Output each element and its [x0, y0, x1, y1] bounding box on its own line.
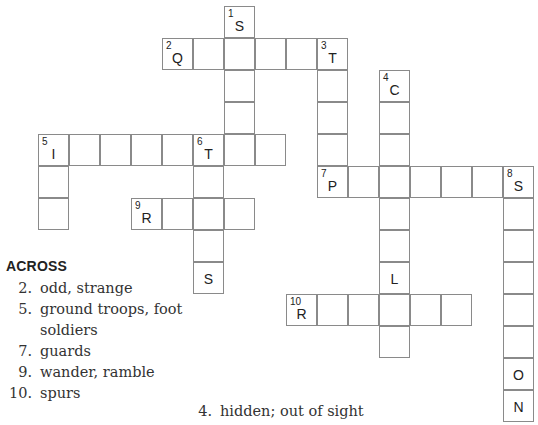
crossword-cell[interactable]: 5I [38, 134, 69, 166]
crossword-cell[interactable] [224, 134, 255, 166]
clue-text: spurs [40, 383, 190, 404]
crossword-cell[interactable] [441, 166, 472, 198]
crossword-cell[interactable]: 7P [317, 166, 348, 198]
clue-text: wander, ramble [40, 362, 190, 383]
across-heading: ACROSS [6, 258, 190, 274]
clue-across-10: 10. spurs [6, 383, 190, 404]
crossword-cell[interactable]: 3T [317, 38, 348, 70]
crossword-cell[interactable] [255, 38, 286, 70]
crossword-cell[interactable] [379, 326, 410, 358]
crossword-cell[interactable] [348, 294, 379, 326]
crossword-cell[interactable] [317, 70, 348, 102]
crossword-cell[interactable] [379, 134, 410, 166]
crossword-cell[interactable] [193, 198, 224, 230]
cell-letter: R [287, 306, 316, 322]
crossword-cell[interactable] [224, 70, 255, 102]
crossword-cell[interactable]: 6T [193, 134, 224, 166]
down-clues: 4. hidden; out of sight [196, 401, 364, 422]
cell-letter: N [504, 399, 533, 415]
crossword-cell[interactable] [379, 198, 410, 230]
cell-letter: C [380, 82, 409, 98]
crossword-cell[interactable] [410, 166, 441, 198]
crossword-cell[interactable]: 8S [503, 166, 534, 198]
crossword-cell[interactable] [503, 294, 534, 326]
crossword-cell[interactable] [224, 198, 255, 230]
crossword-cell[interactable] [162, 198, 193, 230]
clue-number: 2. [6, 278, 40, 299]
crossword-cell[interactable] [379, 230, 410, 262]
crossword-cell[interactable]: 10R [286, 294, 317, 326]
crossword-cell[interactable] [193, 38, 224, 70]
cell-letter: S [194, 271, 223, 287]
crossword-cell[interactable] [379, 102, 410, 134]
crossword-cell[interactable] [410, 294, 441, 326]
clue-across-5: 5. ground troops, foot soldiers [6, 299, 190, 341]
crossword-cell[interactable] [162, 134, 193, 166]
crossword-cell[interactable] [379, 294, 410, 326]
clue-number: 4. [196, 401, 220, 422]
cell-letter: L [380, 271, 409, 287]
cell-letter: Q [163, 50, 192, 66]
cell-letter: O [504, 367, 533, 383]
crossword-cell[interactable]: L [379, 262, 410, 294]
crossword-cell[interactable] [100, 134, 131, 166]
crossword-cell[interactable] [503, 262, 534, 294]
clue-across-9: 9. wander, ramble [6, 362, 190, 383]
crossword-cell[interactable] [503, 326, 534, 358]
crossword-cell[interactable] [69, 134, 100, 166]
cell-letter: T [318, 50, 347, 66]
crossword-cell[interactable]: 1S [224, 6, 255, 38]
clue-number: 7. [6, 341, 40, 362]
clue-text: ground troops, foot soldiers [40, 299, 190, 341]
clue-number: 5. [6, 299, 40, 341]
crossword-cell[interactable] [503, 198, 534, 230]
across-clues: ACROSS 2. odd, strange 5. ground troops,… [6, 258, 190, 404]
crossword-cell[interactable]: 4C [379, 70, 410, 102]
crossword-cell[interactable]: O [503, 358, 534, 390]
clue-text: odd, strange [40, 278, 190, 299]
crossword-cell[interactable] [38, 166, 69, 198]
clue-number: 10. [6, 383, 40, 404]
clue-across-2: 2. odd, strange [6, 278, 190, 299]
crossword-cell[interactable] [317, 102, 348, 134]
crossword-cell[interactable] [193, 230, 224, 262]
crossword-cell[interactable] [441, 294, 472, 326]
crossword-cell[interactable] [286, 38, 317, 70]
clue-down-4: 4. hidden; out of sight [196, 401, 364, 422]
crossword-cell[interactable] [348, 166, 379, 198]
cell-letter: I [39, 146, 68, 162]
crossword-cell[interactable] [503, 230, 534, 262]
clue-text: hidden; out of sight [220, 401, 364, 422]
crossword-cell[interactable] [224, 38, 255, 70]
crossword-cell[interactable] [255, 134, 286, 166]
crossword-cell[interactable] [317, 134, 348, 166]
crossword-cell[interactable] [472, 166, 503, 198]
crossword-cell[interactable] [38, 198, 69, 230]
cell-letter: S [504, 178, 533, 194]
cell-letter: P [318, 178, 347, 194]
crossword-cell[interactable] [317, 294, 348, 326]
crossword-cell[interactable] [379, 166, 410, 198]
cell-letter: R [132, 210, 161, 226]
crossword-cell[interactable]: N [503, 390, 534, 422]
clue-across-7: 7. guards [6, 341, 190, 362]
cell-letter: S [225, 18, 254, 34]
crossword-cell[interactable] [131, 134, 162, 166]
cell-letter: T [194, 146, 223, 162]
clue-number: 9. [6, 362, 40, 383]
crossword-cell[interactable] [193, 166, 224, 198]
clue-text: guards [40, 341, 190, 362]
crossword-cell[interactable]: 2Q [162, 38, 193, 70]
crossword-cell[interactable] [224, 102, 255, 134]
crossword-cell[interactable]: S [193, 262, 224, 294]
crossword-cell[interactable]: 9R [131, 198, 162, 230]
